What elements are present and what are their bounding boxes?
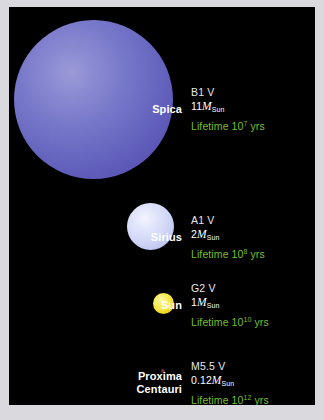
lifetime-prefix-sirius: Lifetime 10 xyxy=(191,248,243,260)
spectral-class-proxima-centauri: M5.5 V xyxy=(191,359,269,373)
mass-subscript-spica: Sun xyxy=(212,106,225,113)
lifetime-suffix-sun: yrs xyxy=(251,316,268,328)
lifetime-suffix-spica: yrs xyxy=(247,120,264,132)
star-name-spica: Spica xyxy=(108,103,191,116)
star-name-sun: Sun xyxy=(108,299,191,312)
mass-symbol-proxima-centauri: M xyxy=(212,374,222,386)
lifetime-prefix-proxima-centauri: Lifetime 10 xyxy=(191,394,243,405)
lifetime-suffix-sirius: yrs xyxy=(247,248,264,260)
mass-spica: 11MSun xyxy=(191,99,265,117)
star-label-row-proxima-centauri: ProximaCentauri M5.5 V 0.12MSun Lifetime… xyxy=(108,359,269,405)
star-name-proxima-centauri-line1: Proxima xyxy=(138,370,182,382)
star-name-proxima-centauri-line2: Centauri xyxy=(137,383,182,395)
star-name-proxima-centauri: ProximaCentauri xyxy=(108,370,191,396)
lifetime-spica: Lifetime 107 yrs xyxy=(191,117,265,133)
star-size-comparison-figure: Spica B1 V 11MSun Lifetime 107 yrs Siriu… xyxy=(0,0,324,420)
mass-proxima-centauri: 0.12MSun xyxy=(191,373,269,391)
spectral-class-sun: G2 V xyxy=(191,281,269,295)
star-name-sirius: Sirius xyxy=(108,231,191,244)
star-label-row-sun: Sun G2 V 1MSun Lifetime 1010 yrs xyxy=(108,281,269,329)
mass-sun: 1MSun xyxy=(191,295,269,313)
lifetime-sun: Lifetime 1010 yrs xyxy=(191,313,269,329)
star-details-spica: B1 V 11MSun Lifetime 107 yrs xyxy=(191,85,265,133)
lifetime-suffix-proxima-centauri: yrs xyxy=(251,394,268,405)
spectral-class-sirius: A1 V xyxy=(191,213,265,227)
lifetime-prefix-sun: Lifetime 10 xyxy=(191,316,243,328)
mass-subscript-proxima-centauri: Sun xyxy=(222,380,235,387)
mass-sirius: 2MSun xyxy=(191,227,265,245)
star-details-sirius: A1 V 2MSun Lifetime 108 yrs xyxy=(191,213,265,261)
mass-subscript-sirius: Sun xyxy=(207,234,220,241)
mass-value-proxima-centauri: 0.12 xyxy=(191,374,212,386)
mass-value-spica: 11 xyxy=(191,100,202,112)
star-label-row-spica: Spica B1 V 11MSun Lifetime 107 yrs xyxy=(108,85,265,133)
mass-symbol-sirius: M xyxy=(197,228,207,240)
mass-symbol-sun: M xyxy=(197,296,207,308)
spectral-class-spica: B1 V xyxy=(191,85,265,99)
star-details-proxima-centauri: M5.5 V 0.12MSun Lifetime 1012 yrs xyxy=(191,359,269,405)
mass-symbol-spica: M xyxy=(202,100,212,112)
diagram-plate: Spica B1 V 11MSun Lifetime 107 yrs Siriu… xyxy=(9,7,315,405)
lifetime-prefix-spica: Lifetime 10 xyxy=(191,120,243,132)
star-label-row-sirius: Sirius A1 V 2MSun Lifetime 108 yrs xyxy=(108,213,265,261)
star-details-sun: G2 V 1MSun Lifetime 1010 yrs xyxy=(191,281,269,329)
lifetime-sirius: Lifetime 108 yrs xyxy=(191,245,265,261)
mass-subscript-sun: Sun xyxy=(207,302,220,309)
lifetime-proxima-centauri: Lifetime 1012 yrs xyxy=(191,391,269,405)
